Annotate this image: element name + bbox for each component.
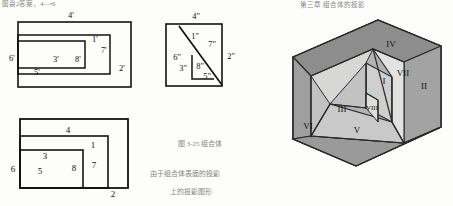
side-view-label-5: 5" (203, 71, 211, 81)
side-view-diagonal (179, 26, 222, 85)
iso-label-II: II (421, 81, 427, 91)
top-view-label-2: 2' (119, 63, 125, 73)
drawing-canvas: 图袅2答案，4—•6 第三章 组合体的投影 图 3-25 组合体 由于组合体表面… (0, 0, 453, 206)
scan-artifact-text: 图 3-25 组合体 (178, 139, 222, 148)
side-view-group: 4" 1" 7" 2" 6" 3" 8" 5" (166, 11, 235, 86)
top-view-label-1: 1' (92, 34, 98, 44)
side-view-label-6: 6" (173, 52, 181, 62)
iso-label-VII: VII (397, 68, 410, 78)
scan-artifact-text: 由于组合体表面的投影 (150, 169, 220, 178)
isometric-view-group: IV VII II I III VIII VI V (293, 20, 441, 166)
front-view-label-7: 7 (92, 160, 97, 170)
top-view-label-3: 3' (53, 54, 59, 64)
iso-label-VI: VI (303, 121, 313, 131)
side-view-label-7: 7" (208, 39, 216, 49)
top-view-group: 4' 6' 1' 7' 2' 3' 8' 5' (9, 10, 131, 87)
top-view-label-5: 5' (34, 67, 40, 77)
front-view-label-2: 2 (111, 189, 116, 199)
iso-label-III: III (338, 104, 347, 114)
front-view-label-3: 3 (43, 151, 48, 161)
iso-face-II (404, 46, 441, 143)
top-view-label-4: 4' (68, 10, 74, 20)
iso-label-V: V (354, 125, 361, 135)
iso-label-IV: IV (386, 39, 396, 49)
front-view-outer-rect (20, 119, 128, 188)
side-view-label-4: 4" (192, 11, 200, 21)
front-view-group: 4 6 1 7 2 3 5 8 (11, 119, 128, 199)
engineering-drawing-figure: 图袅2答案，4—•6 第三章 组合体的投影 图 3-25 组合体 由于组合体表面… (0, 0, 453, 206)
front-view-label-8: 8 (72, 163, 77, 173)
front-view-label-5: 5 (38, 166, 43, 176)
scan-artifact-text: 上的投影图形 (170, 187, 212, 196)
top-view-label-6: 6' (9, 53, 15, 63)
side-view-label-3: 3" (179, 63, 187, 73)
front-view-label-4: 4 (66, 125, 71, 135)
side-view-label-8: 8" (196, 61, 204, 71)
iso-label-VIII: VIII (366, 104, 379, 112)
front-view-label-6: 6 (11, 164, 16, 174)
front-view-label-1: 1 (91, 140, 96, 150)
iso-label-I: I (383, 76, 386, 86)
side-view-label-2: 2" (227, 51, 235, 61)
scan-artifact-text: 图袅2答案，4—•6 (2, 0, 56, 8)
top-view-label-8: 8' (75, 54, 81, 64)
scan-artifact-text: 第三章 组合体的投影 (300, 0, 365, 9)
side-view-label-1: 1" (191, 31, 199, 41)
top-view-label-7: 7' (101, 45, 107, 55)
